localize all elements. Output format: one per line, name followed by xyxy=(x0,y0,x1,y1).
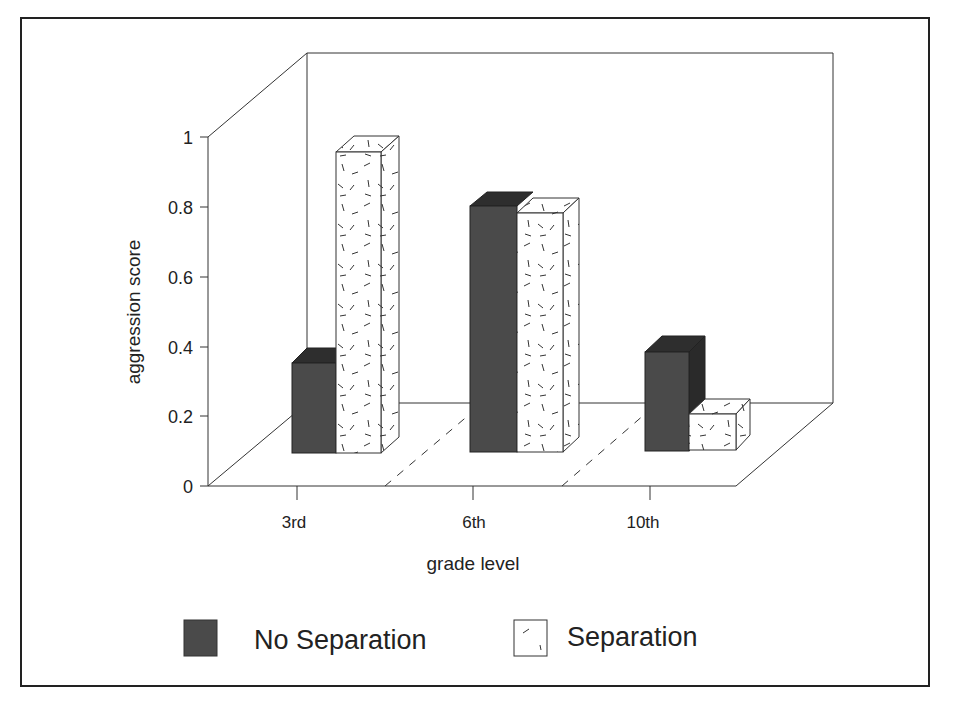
svg-text:0.6: 0.6 xyxy=(168,268,193,288)
legend-swatch-no-separation xyxy=(184,620,217,656)
legend-label-no-separation: No Separation xyxy=(254,625,427,655)
bar-3rd-separation xyxy=(336,136,399,453)
svg-text:3rd: 3rd xyxy=(282,513,307,532)
y-tick-labels: 0 0.2 0.4 0.6 0.8 1 xyxy=(168,128,193,497)
bar-10th-separation xyxy=(689,399,750,450)
bar-6th-separation xyxy=(517,198,579,452)
svg-text:6th: 6th xyxy=(462,513,486,532)
svg-text:10th: 10th xyxy=(626,513,659,532)
x-tick-labels: 3rd 6th 10th xyxy=(282,513,660,532)
svg-text:0.8: 0.8 xyxy=(168,198,193,218)
legend: No Separation Separation xyxy=(184,620,698,656)
x-axis xyxy=(297,486,650,500)
x-axis-label: grade level xyxy=(427,553,520,574)
bar-chart-3d: 0 0.2 0.4 0.6 0.8 1 aggression score 3rd… xyxy=(0,0,955,707)
svg-text:0.2: 0.2 xyxy=(168,407,193,427)
svg-text:0: 0 xyxy=(183,477,193,497)
y-axis xyxy=(200,137,208,486)
y-axis-label: aggression score xyxy=(123,240,144,385)
svg-text:1: 1 xyxy=(183,128,193,148)
svg-text:0.4: 0.4 xyxy=(168,338,193,358)
legend-label-separation: Separation xyxy=(567,622,698,652)
legend-swatch-separation xyxy=(514,620,547,656)
